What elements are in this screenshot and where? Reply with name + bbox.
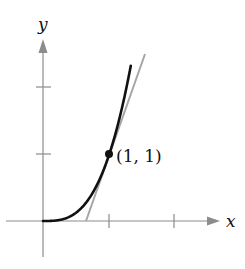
y-axis-label: y — [37, 14, 48, 34]
point-1-1 — [105, 150, 113, 158]
y-axis-arrow-icon — [39, 39, 48, 53]
x-axis-arrow-icon — [207, 217, 220, 226]
x-axis-label: x — [226, 211, 236, 231]
curve-main — [43, 66, 131, 221]
graph: (1, 1) x y — [0, 0, 245, 269]
point-label: (1, 1) — [116, 146, 162, 166]
